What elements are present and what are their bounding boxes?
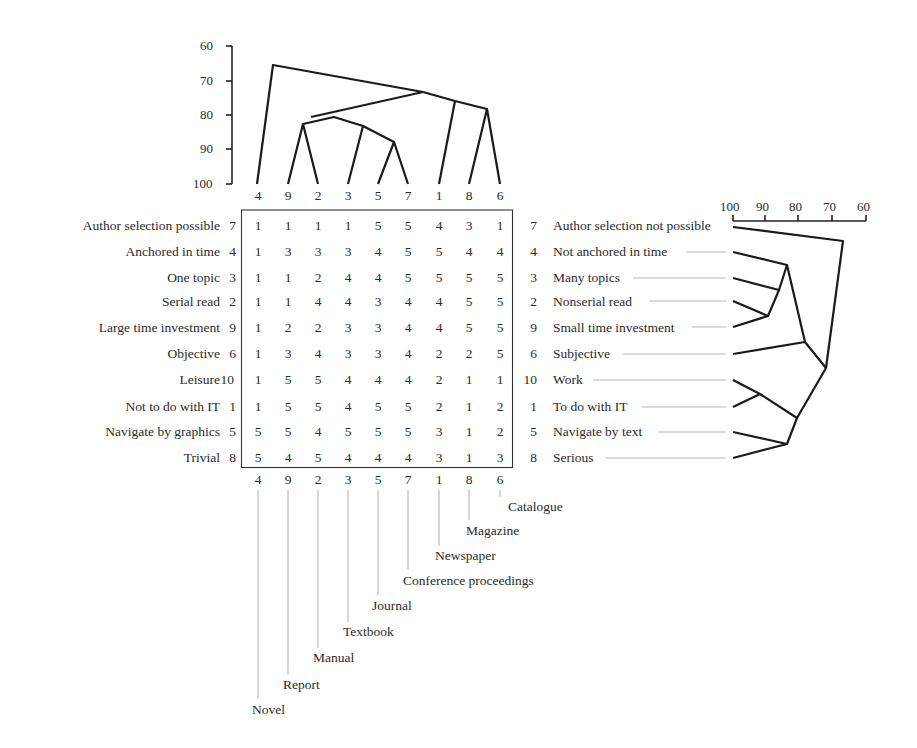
rating-cell: 1 [248,294,268,310]
rating-cell: 4 [308,294,328,310]
top-element-id: 2 [308,188,328,204]
construct-id-right: 10 [515,372,537,388]
rating-cell: 3 [429,450,449,466]
rating-cell: 5 [398,399,418,415]
element-name-newspaper: Newspaper [435,548,496,564]
bottom-element-id: 1 [429,472,449,488]
rating-cell: 1 [248,218,268,234]
bottom-element-id: 5 [368,472,388,488]
rating-cell: 1 [459,372,479,388]
top-axis-tick-90: 90 [200,141,213,157]
rating-cell: 4 [338,399,358,415]
construct-left-pole: Trivial [10,450,220,466]
rating-cell: 3 [278,346,298,362]
rating-cell: 4 [429,218,449,234]
rating-cell: 1 [308,218,328,234]
rating-cell: 2 [308,320,328,336]
rating-cell: 4 [368,450,388,466]
rating-cell: 2 [308,270,328,286]
rating-cell: 1 [248,399,268,415]
rating-cell: 5 [278,399,298,415]
element-name-textbook: Textbook [343,624,394,640]
rating-cell: 2 [459,346,479,362]
rating-cell: 4 [338,270,358,286]
rating-cell: 4 [338,294,358,310]
top-element-id: 6 [490,188,510,204]
construct-id-left: 6 [216,346,236,362]
rating-cell: 5 [278,424,298,440]
rating-cell: 4 [398,372,418,388]
construct-right-pole: Nonserial read [553,294,632,310]
rating-cell: 1 [278,270,298,286]
right-axis-tick-60: 60 [857,199,870,215]
element-name-catalogue: Catalogue [508,499,563,515]
rating-cell: 2 [429,372,449,388]
construct-right-pole: To do with IT [553,399,627,415]
construct-id-left: 7 [216,218,236,234]
rating-cell: 5 [308,372,328,388]
rating-cell: 4 [368,244,388,260]
rating-cell: 5 [490,346,510,362]
rating-cell: 1 [248,244,268,260]
construct-id-left: 3 [216,270,236,286]
construct-id-right: 1 [515,399,537,415]
rating-cell: 1 [278,218,298,234]
rating-cell: 3 [459,218,479,234]
rating-cell: 3 [490,450,510,466]
rating-cell: 1 [278,294,298,310]
rating-cell: 4 [368,372,388,388]
construct-id-left: 9 [216,320,236,336]
bottom-element-id: 4 [248,472,268,488]
top-element-id: 8 [459,188,479,204]
rating-cell: 2 [490,399,510,415]
rating-cell: 5 [368,218,388,234]
rating-cell: 5 [398,218,418,234]
rating-cell: 3 [368,346,388,362]
element-name-manual: Manual [313,650,354,666]
rating-cell: 5 [248,450,268,466]
top-element-id: 4 [248,188,268,204]
rating-cell: 2 [429,399,449,415]
right-axis-tick-70: 70 [823,199,836,215]
element-name-magazine: Magazine [466,523,519,539]
construct-right-pole: Subjective [553,346,610,362]
rating-cell: 4 [398,450,418,466]
rating-cell: 5 [429,244,449,260]
top-axis-tick-100: 100 [193,176,213,192]
rating-cell: 5 [368,399,388,415]
rating-cell: 2 [490,424,510,440]
rating-cell: 3 [429,424,449,440]
rating-cell: 1 [338,218,358,234]
construct-right-pole: Many topics [553,270,620,286]
rating-cell: 2 [278,320,298,336]
construct-dendrogram [733,227,843,458]
element-dendrogram [257,65,500,184]
bottom-element-id: 6 [490,472,510,488]
rating-cell: 3 [368,294,388,310]
rating-cell: 1 [459,399,479,415]
right-axis-tick-100: 100 [720,199,740,215]
construct-id-right: 9 [515,320,537,336]
rating-cell: 5 [490,320,510,336]
construct-left-pole: Navigate by graphics [10,424,220,440]
element-name-conference-proceedings: Conference proceedings [403,573,534,589]
rating-cell: 4 [459,244,479,260]
construct-id-right: 4 [515,244,537,260]
rating-cell: 5 [368,424,388,440]
top-element-id: 9 [278,188,298,204]
rating-cell: 5 [490,294,510,310]
rating-cell: 5 [459,294,479,310]
bottom-element-id: 8 [459,472,479,488]
rating-cell: 4 [338,372,358,388]
construct-right-pole: Work [553,372,583,388]
element-name-novel: Novel [252,702,285,718]
rating-cell: 5 [248,424,268,440]
construct-id-left: 4 [216,244,236,260]
rating-cell: 4 [308,346,328,362]
element-leader-lines [258,490,500,699]
construct-left-pole: Large time investment [10,320,220,336]
top-element-id: 7 [398,188,418,204]
construct-id-right: 6 [515,346,537,362]
construct-left-pole: Author selection possible [10,218,220,234]
top-element-id: 3 [338,188,358,204]
